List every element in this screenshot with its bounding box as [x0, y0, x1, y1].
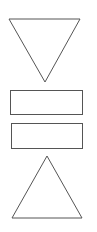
- lower-rectangle-shape: [12, 124, 83, 149]
- upright-triangle-shape: [12, 156, 82, 218]
- upper-rectangle-shape: [11, 91, 83, 115]
- inverted-triangle-shape: [9, 19, 80, 82]
- diagram-canvas: [0, 0, 97, 232]
